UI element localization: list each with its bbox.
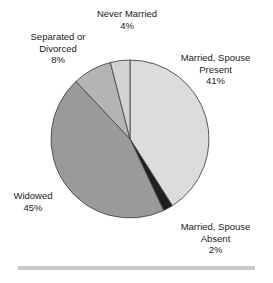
slice-label-married-spouse-absent-line2: Absent [163, 233, 268, 245]
footer-rule [18, 266, 255, 270]
slice-label-married-spouse-absent: Married, Spouse Absent 2% [163, 221, 268, 256]
slice-label-separated-or-divorced-pct: 8% [8, 54, 108, 66]
slice-label-separated-or-divorced-line2: Divorced [8, 43, 108, 55]
slice-label-separated-or-divorced-line1: Separated or [31, 31, 86, 42]
slice-label-never-married-pct: 4% [72, 20, 182, 32]
slice-label-married-spouse-present-line2: Present [163, 64, 268, 76]
slice-label-never-married: Never Married 4% [72, 8, 182, 31]
slice-label-separated-or-divorced: Separated or Divorced 8% [8, 31, 108, 66]
slice-label-married-spouse-absent-line1: Married, Spouse [181, 221, 251, 232]
slice-label-married-spouse-present-line1: Married, Spouse [181, 52, 251, 63]
slice-label-married-spouse-present-pct: 41% [163, 75, 268, 87]
slice-label-never-married-text: Never Married [97, 8, 157, 19]
slice-label-widowed: Widowed 45% [2, 190, 64, 213]
slice-label-married-spouse-absent-pct: 2% [163, 244, 268, 256]
pie-chart-figure: Never Married 4% Separated or Divorced 8… [0, 0, 273, 283]
slice-label-widowed-pct: 45% [2, 202, 64, 214]
slice-label-married-spouse-present: Married, Spouse Present 41% [163, 52, 268, 87]
slice-label-widowed-text: Widowed [13, 190, 52, 201]
